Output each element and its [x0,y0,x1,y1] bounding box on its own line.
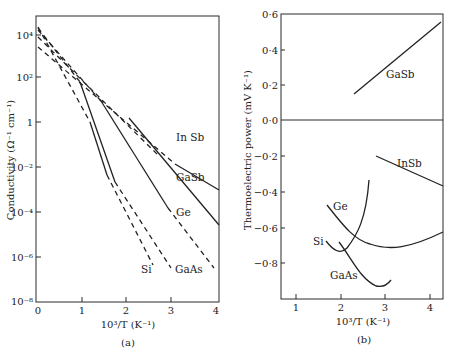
y-tick-label: 0·6 [262,9,278,20]
curve-insb-dashed [38,47,175,164]
label-ge: Ge [176,206,191,218]
curve-gaas-dashed-lower [115,182,171,268]
y-tick-label: 10⁻⁶ [11,252,33,263]
label-ge: Ge [333,200,348,212]
y-tick-label: −0·6 [254,223,278,234]
y-tick-label: 10⁻⁸ [11,296,33,307]
panel-b-x-axis-label: 10³/T (K⁻¹) [336,316,391,327]
y-tick-label: 10⁴ [16,30,33,41]
curve-gasb-solid [129,118,219,225]
panel-b-y-tick-labels: 0·6 0·4 0·2 0·0 −0·2 −0·4 −0·6 −0·8 [254,9,278,269]
label-insb: InSb [397,157,422,169]
curve-si-solid [90,122,107,175]
panel-a-caption: (a) [121,337,135,348]
y-tick-label: −0·8 [254,258,278,269]
label-gaas: GaAs [330,269,358,281]
label-si: Si [313,235,324,247]
panel-b-x-ticks [296,294,430,299]
curve-gasb [354,22,441,94]
panel-a-conductivity: 10⁴ 10² 1 10⁻² 10⁻⁴ 10⁻⁶ 10⁻⁸ 0 1 2 3 4 … [5,16,219,348]
x-tick-label: 2 [123,305,129,316]
label-gaas: GaAs [175,263,203,275]
panel-a-x-tick-labels: 0 1 2 3 4 [35,305,219,316]
panel-b-x-tick-labels: 1 2 3 4 [293,302,433,313]
y-tick-label: 10² [16,72,33,83]
x-tick-label: 3 [382,302,388,313]
y-tick-label: −0·2 [254,151,278,162]
panel-b-thermoelectric: 0·6 0·4 0·2 0·0 −0·2 −0·4 −0·6 −0·8 1 2 … [242,9,443,345]
panel-a-y-ticks [36,35,41,257]
panel-a-curves [38,27,219,268]
x-tick-label: 1 [293,302,299,313]
curve-ge-solid [101,101,168,208]
curve-ge-dashed-lower [168,208,214,268]
panel-a-x-ticks [82,297,171,302]
x-tick-label: 1 [79,305,85,316]
panel-a-x-axis-label: 10³/T (K⁻¹) [101,319,156,330]
y-tick-label: −0·4 [254,187,278,198]
y-tick-label: 0·2 [262,80,278,91]
x-tick-label: 3 [168,305,174,316]
curve-gaas-solid [80,82,115,182]
label-gasb: GaSb [176,171,205,183]
y-tick-label: 0·4 [262,45,278,56]
curve-si-dashed-upper [38,27,90,122]
panel-b-y-ticks [281,50,285,263]
label-insb: In Sb [176,131,204,143]
panel-b-caption: (b) [357,334,371,345]
x-tick-label: 0 [35,305,41,316]
y-tick-label: 0·0 [262,115,278,126]
curve-gaas-dashed-upper [38,28,80,82]
x-tick-label: 2 [338,302,344,313]
y-tick-label: 1 [27,117,33,128]
curve-si-dashed-lower [107,175,153,265]
panel-a-y-axis-label: Conductivity (Ω⁻¹ cm⁻¹) [5,100,16,220]
x-tick-label: 4 [213,305,219,316]
label-si: Si [141,263,152,275]
figure: 10⁴ 10² 1 10⁻² 10⁻⁴ 10⁻⁶ 10⁻⁸ 0 1 2 3 4 … [0,0,455,351]
curve-gasb-dashed [38,37,158,155]
panel-b-y-axis-label: Thermoelectric power (mV K⁻¹) [242,70,253,230]
panel-b-curves [326,22,443,287]
label-gasb: GaSb [386,68,415,80]
x-tick-label: 4 [427,302,433,313]
